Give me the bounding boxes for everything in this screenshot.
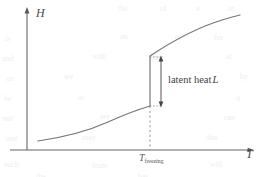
tfreezing-tick-label: Tfreezing	[139, 152, 163, 164]
liquid-branch-curve	[150, 15, 240, 56]
y-axis-label: H	[36, 6, 45, 21]
enthalpy-temperature-figure: theofainisantoforandwiththatatonwebybeas…	[0, 0, 262, 177]
latent-heat-label: latent heatL	[168, 74, 218, 85]
y-axis-arrowhead	[25, 7, 30, 13]
latent-heat-symbol: L	[211, 74, 218, 85]
phase-transition-plot	[0, 0, 262, 177]
latent-heat-arrowhead-down	[159, 102, 164, 108]
tfreezing-subscript: freezing	[145, 158, 164, 164]
solid-branch-curve	[38, 106, 150, 141]
latent-heat-arrowhead-up	[159, 56, 164, 62]
x-axis-label: T	[246, 147, 253, 162]
latent-heat-text: latent heat	[168, 74, 211, 85]
